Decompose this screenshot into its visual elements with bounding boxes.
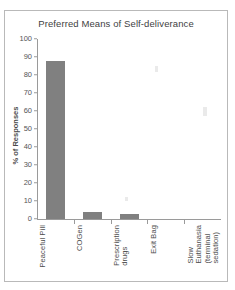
y-tick: 30 [24, 161, 37, 169]
x-axis-label: Slow Euthanasia (terminal sedation) [187, 225, 221, 264]
bar [46, 61, 65, 219]
y-tick-mark [34, 201, 37, 202]
y-tick: 100 [19, 35, 37, 43]
y-tick-mark [34, 111, 37, 112]
y-axis-title: % of Responses [11, 96, 20, 176]
y-tick-label: 80 [24, 71, 34, 79]
y-tick-mark [34, 165, 37, 166]
x-tick-mark [184, 220, 185, 224]
y-tick: 0 [28, 215, 37, 223]
y-tick-mark [34, 39, 37, 40]
y-tick: 20 [24, 179, 37, 187]
x-tick-mark [147, 220, 148, 224]
x-axis-label: Exit Bag [150, 225, 158, 254]
y-tick-label: 100 [19, 35, 34, 43]
bar [120, 214, 139, 219]
y-tick-label: 50 [24, 125, 34, 133]
chart-title: Preferred Means of Self-deliverance [5, 18, 227, 29]
x-axis-line [37, 219, 221, 220]
x-axis-label: Prescription drugs [113, 225, 130, 266]
x-axis-label: Peaceful Pill [39, 225, 47, 268]
x-axis-label: COGen [76, 225, 84, 251]
y-tick: 60 [24, 107, 37, 115]
y-tick: 90 [24, 53, 37, 61]
scan-artifact [125, 197, 128, 201]
y-tick: 80 [24, 71, 37, 79]
x-tick-mark [111, 220, 112, 224]
scan-artifact [155, 66, 158, 72]
y-tick-label: 60 [24, 107, 34, 115]
y-tick-mark [34, 183, 37, 184]
y-tick-label: 90 [24, 53, 34, 61]
y-tick-label: 30 [24, 161, 34, 169]
y-tick-label: 70 [24, 89, 34, 97]
chart-frame: Preferred Means of Self-deliverance % of… [4, 10, 228, 282]
y-tick-label: 20 [24, 179, 34, 187]
y-tick-mark [34, 129, 37, 130]
y-tick: 10 [24, 197, 37, 205]
bar [83, 212, 102, 219]
y-tick: 70 [24, 89, 37, 97]
y-tick-mark [34, 219, 37, 220]
y-tick: 40 [24, 143, 37, 151]
y-tick: 50 [24, 125, 37, 133]
y-tick-label: 10 [24, 197, 34, 205]
y-tick-mark [34, 93, 37, 94]
plot-area: 0102030405060708090100 [37, 39, 221, 219]
x-tick-mark [74, 220, 75, 224]
scan-artifact [203, 107, 207, 116]
y-tick-mark [34, 75, 37, 76]
y-tick-mark [34, 147, 37, 148]
y-tick-label: 40 [24, 143, 34, 151]
y-tick-mark [34, 57, 37, 58]
